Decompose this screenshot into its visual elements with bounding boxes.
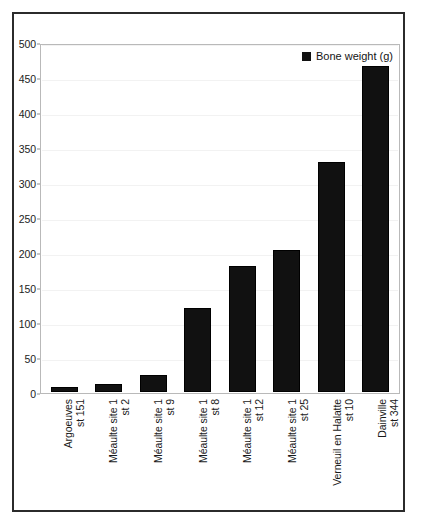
x-axis-tick-label: Dainvillest 344 (377, 399, 400, 438)
x-axis-label-line2: st 25 (299, 399, 311, 463)
y-axis-tick-label: 250 (19, 213, 36, 225)
x-axis-label-line1: Méaulte site 1 (198, 399, 210, 463)
legend-swatch-bone-weight (302, 52, 311, 61)
plot-area: Bone weight (g) (40, 44, 400, 394)
bar-slot (176, 45, 221, 392)
bar (229, 266, 256, 392)
x-axis: Argoeuvesst 151Méaulte site 1st 2Méaulte… (41, 396, 399, 508)
x-axis-label-line2: st 9 (164, 399, 176, 463)
x-axis-label-line2: st 151 (75, 399, 87, 448)
x-axis-label-line2: st 10 (343, 399, 355, 486)
x-axis-label-line1: Méaulte site 1 (108, 399, 120, 463)
bar-slot (220, 45, 265, 392)
y-axis-tick-label: 450 (19, 73, 36, 85)
legend: Bone weight (g) (298, 49, 396, 63)
x-axis-tick-label: Méaulte site 1st 12 (242, 399, 265, 463)
bar (273, 250, 300, 392)
x-axis-label-line1: Verneuil en Halatte (332, 399, 344, 486)
y-axis: 500450400350300250200150100500 (0, 44, 40, 395)
x-axis-tick-label: Méaulte site 1st 9 (153, 399, 176, 463)
bar-slot (42, 45, 87, 392)
x-axis-tick-label: Verneuil en Halattest 10 (332, 399, 355, 486)
y-axis-tick-label: 50 (25, 353, 36, 365)
x-axis-label-line1: Méaulte site 1 (287, 399, 299, 463)
y-axis-tick-label: 150 (19, 283, 36, 295)
y-axis-tick-label: 500 (19, 38, 36, 50)
x-axis-label-slot: Méaulte site 1st 9 (131, 396, 176, 508)
y-axis-tick-label: 200 (19, 248, 36, 260)
bar (95, 384, 122, 392)
bar-slot (354, 45, 399, 392)
plot-wrapper: Bone weight (g) (40, 44, 400, 395)
x-axis-label-slot: Méaulte site 1st 8 (175, 396, 220, 508)
x-axis-label-slot: Méaulte site 1st 2 (86, 396, 131, 508)
bar-slot (265, 45, 310, 392)
bar (184, 308, 211, 392)
x-axis-tick-label: Méaulte site 1st 2 (108, 399, 131, 463)
x-axis-label-slot: Méaulte site 1st 25 (265, 396, 310, 508)
x-axis-tick-label: Méaulte site 1st 25 (287, 399, 310, 463)
y-axis-tick-label: 100 (19, 318, 36, 330)
bar (362, 66, 389, 392)
x-axis-label-slot: Argoeuvesst 151 (41, 396, 86, 508)
y-axis-tick-label: 350 (19, 143, 36, 155)
x-axis-tick-label: Méaulte site 1st 8 (198, 399, 221, 463)
bar (140, 375, 167, 392)
x-axis-tick-label: Argoeuvesst 151 (63, 399, 86, 448)
bar-series (42, 45, 398, 392)
bar-slot (309, 45, 354, 392)
x-axis-label-slot: Verneuil en Halattest 10 (310, 396, 355, 508)
x-axis-label-line2: st 2 (120, 399, 132, 463)
x-axis-label-slot: Méaulte site 1st 12 (220, 396, 265, 508)
legend-label: Bone weight (g) (316, 50, 393, 62)
bar-slot (131, 45, 176, 392)
y-axis-tick-label: 0 (30, 388, 36, 400)
x-axis-label-line2: st 8 (209, 399, 221, 463)
bar (51, 387, 78, 392)
x-axis-label-line1: Dainville (377, 399, 389, 438)
bar-slot (87, 45, 132, 392)
y-axis-tick-label: 300 (19, 178, 36, 190)
bar (318, 162, 345, 392)
y-axis-tick-label: 400 (19, 108, 36, 120)
x-axis-label-slot: Dainvillest 344 (354, 396, 399, 508)
x-axis-label-line1: Méaulte site 1 (153, 399, 165, 463)
x-axis-label-line2: st 12 (254, 399, 266, 463)
x-axis-label-line2: st 344 (388, 399, 400, 438)
figure-container: 500450400350300250200150100500 Bone weig… (0, 0, 424, 526)
